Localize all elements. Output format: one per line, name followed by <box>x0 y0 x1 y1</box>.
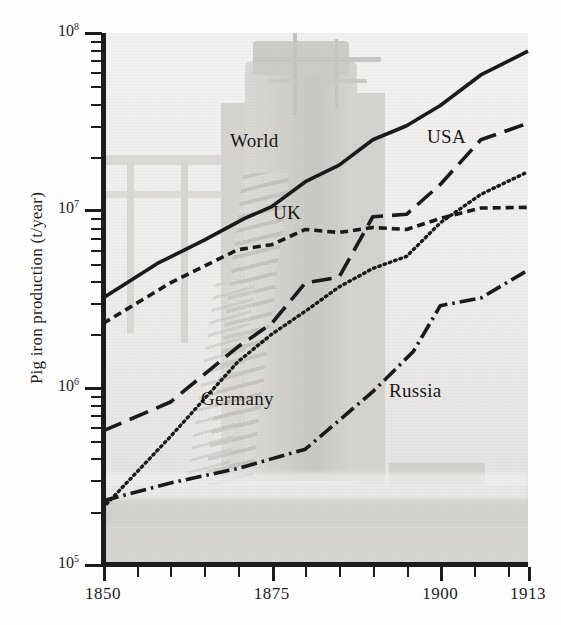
x-tick-minor <box>474 567 476 577</box>
y-tick-label: 108 <box>58 21 79 40</box>
series-label-usa: USA <box>427 126 466 148</box>
y-tick-minor <box>91 441 102 443</box>
y-tick-minor <box>91 334 102 336</box>
x-tick-label: 1875 <box>242 584 302 604</box>
y-tick-minor <box>91 72 102 74</box>
series-lines <box>103 33 528 565</box>
x-tick-major <box>528 567 531 581</box>
y-tick-minor <box>91 41 102 43</box>
series-line-world <box>103 51 528 298</box>
plot-area: World USA UK Germany Russia <box>103 33 528 565</box>
x-tick-label: 1913 <box>498 584 558 604</box>
series-label-germany: Germany <box>201 388 274 410</box>
y-tick-minor <box>91 396 102 398</box>
x-tick-minor <box>137 567 139 577</box>
y-tick-minor <box>91 480 102 482</box>
y-tick-minor <box>91 86 102 88</box>
y-tick-minor <box>91 157 102 159</box>
y-tick-minor <box>91 405 102 407</box>
y-tick-label: 105 <box>58 553 79 572</box>
y-tick-major <box>85 32 102 35</box>
y-tick-minor <box>91 303 102 305</box>
y-tick-minor <box>91 427 102 429</box>
y-tick-minor <box>91 238 102 240</box>
series-label-russia: Russia <box>389 380 441 402</box>
series-line-russia <box>103 270 528 501</box>
series-line-uk <box>103 207 528 323</box>
y-tick-minor <box>91 50 102 52</box>
x-tick-major <box>272 567 275 581</box>
x-tick-minor <box>204 567 206 577</box>
y-tick-minor <box>91 281 102 283</box>
y-axis-title: Pig iron production (t/year) <box>27 73 51 503</box>
y-tick-minor <box>91 512 102 514</box>
x-tick-label: 1850 <box>73 584 133 604</box>
y-tick-minor <box>91 264 102 266</box>
x-tick-minor <box>407 567 409 577</box>
x-tick-minor <box>508 567 510 577</box>
series-label-world: World <box>230 130 279 152</box>
y-tick-minor <box>91 218 102 220</box>
y-tick-label: 106 <box>58 376 79 395</box>
x-tick-minor <box>373 567 375 577</box>
y-tick-minor <box>91 126 102 128</box>
x-tick-minor <box>305 567 307 577</box>
y-axis-line <box>101 33 106 567</box>
y-tick-minor <box>91 228 102 230</box>
series-line-germany <box>103 172 528 508</box>
y-tick-minor <box>91 458 102 460</box>
chart-figure: Pig iron production (t/year) <box>0 0 561 625</box>
y-tick-minor <box>91 60 102 62</box>
y-tick-major <box>85 209 102 212</box>
y-tick-major <box>85 387 102 390</box>
x-tick-minor <box>339 567 341 577</box>
x-tick-minor <box>238 567 240 577</box>
x-tick-major <box>103 567 106 581</box>
y-tick-minor <box>91 250 102 252</box>
series-label-uk: UK <box>273 202 301 224</box>
x-tick-major <box>440 567 443 581</box>
y-tick-minor <box>91 415 102 417</box>
series-line-usa <box>103 123 528 431</box>
x-axis-line <box>101 562 528 567</box>
x-tick-label: 1900 <box>410 584 470 604</box>
y-tick-minor <box>91 104 102 106</box>
x-tick-minor <box>170 567 172 577</box>
y-tick-major <box>85 564 102 567</box>
y-tick-label: 107 <box>58 198 79 217</box>
